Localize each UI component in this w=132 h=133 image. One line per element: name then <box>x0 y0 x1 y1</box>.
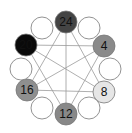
node-label: 12 <box>59 107 73 121</box>
node-label: 4 <box>101 39 108 53</box>
node-label: 20 <box>19 38 33 52</box>
node-label: 16 <box>20 83 34 97</box>
node-circle: 20 <box>15 34 37 56</box>
node-circle <box>78 17 100 39</box>
node-circle <box>31 17 53 39</box>
node-circle <box>78 97 100 119</box>
node-label: 24 <box>59 15 73 29</box>
node-label: 8 <box>101 85 108 99</box>
node-circle: 4 <box>93 35 115 57</box>
circle-ring-diagram: 2448121620 <box>0 0 132 133</box>
edge-line <box>26 45 104 46</box>
edge-line <box>27 90 104 92</box>
node-circle <box>10 58 32 80</box>
edge-line <box>26 45 104 92</box>
node-circle: 24 <box>55 11 77 33</box>
node-circle: 16 <box>16 79 38 101</box>
node-circle <box>99 58 121 80</box>
node-circle <box>31 97 53 119</box>
node-circle: 12 <box>55 103 77 125</box>
